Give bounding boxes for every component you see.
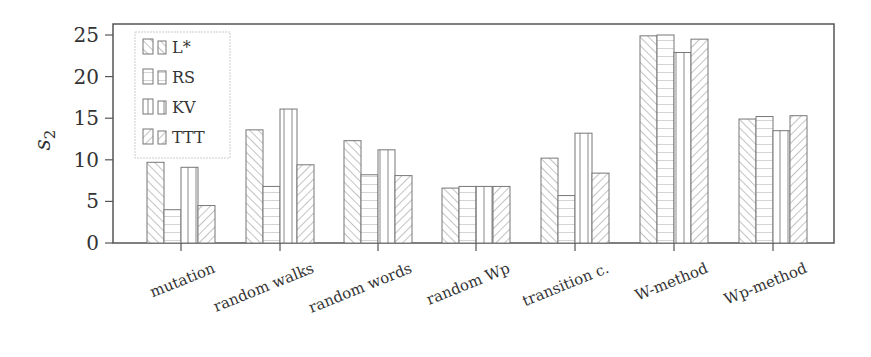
bar-group [147,162,215,243]
x-tick-label: mutation [147,259,217,301]
bar-group [739,116,807,243]
legend-swatch [143,69,153,84]
y-tick-label: 0 [86,231,99,255]
y-axis-label: s2 [30,130,59,151]
bar-group [640,35,708,243]
y-axis: 0510152025 [74,23,113,255]
bar-chart: 0510152025 mutationrandom walksrandom wo… [0,0,871,357]
x-tick-label: Wp-method [722,259,810,309]
legend-label: KV [172,98,196,117]
x-tick-label: random words [306,259,415,317]
legend-label: L* [172,38,191,57]
x-axis: mutationrandom walksrandom wordsrandom W… [147,243,810,317]
x-tick-label: random Wp [424,259,513,309]
y-tick-label: 20 [74,65,99,89]
bar-group [442,186,510,243]
x-tick-label: random walks [211,259,317,316]
legend-label: RS [172,68,195,87]
legend-label: TTT [172,128,205,147]
y-tick-label: 10 [74,148,99,172]
bars-layer [147,35,807,243]
y-tick-label: 25 [74,23,99,47]
y-tick-label: 15 [74,106,99,130]
x-tick-label: transition c. [520,259,612,310]
legend-swatch [143,39,153,54]
svg-text:s2: s2 [30,130,59,151]
bar-group [541,133,609,243]
legend-swatch [143,99,153,114]
bar-group [246,109,314,243]
legend: L*RSKVTTT [135,32,230,158]
y-tick-label: 5 [86,189,99,213]
x-tick-label: W-method [633,259,711,305]
bar-group [344,141,412,243]
legend-swatch [143,129,153,144]
